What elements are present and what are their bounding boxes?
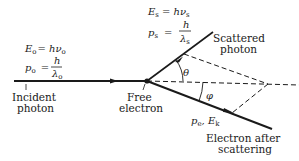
incident-label-line2: photon (17, 102, 54, 114)
scattered-momentum-eq: ps= h λs (148, 19, 191, 46)
recoil-label-line2: scattering (218, 143, 272, 155)
recoil-arrowhead (223, 108, 234, 113)
incident-momentum-eq: po= h λo (25, 55, 63, 81)
free-electron-pointer (143, 84, 145, 90)
scattered-label-line2: photon (220, 43, 257, 55)
scattered-energy-eq: Es= hνs (147, 6, 190, 19)
theta-label: θ (183, 67, 189, 78)
parallelogram-side-dashed (232, 84, 268, 113)
parallelogram-top-dashed (184, 54, 268, 84)
svg-text:ps=: ps= (148, 27, 172, 40)
horizontal-axis-dashed (147, 81, 299, 85)
incident-arrowhead (110, 79, 118, 84)
free-electron-label-line2: electron (119, 102, 163, 114)
phi-arc (199, 82, 203, 101)
compton-scattering-diagram: θ φ Eo= hνo po= h λo Incident photon Fre… (0, 0, 299, 161)
svg-text:Es= hνs: Es= hνs (147, 6, 190, 19)
svg-text:h: h (54, 55, 60, 66)
phi-label: φ (206, 90, 213, 101)
svg-text:po=: po= (25, 62, 49, 75)
theta-arc (176, 60, 183, 81)
svg-text:λo: λo (51, 68, 63, 81)
recoil-quantities: pe, Ek (191, 115, 220, 128)
svg-text:λs: λs (179, 33, 190, 46)
svg-text:h: h (183, 19, 189, 30)
